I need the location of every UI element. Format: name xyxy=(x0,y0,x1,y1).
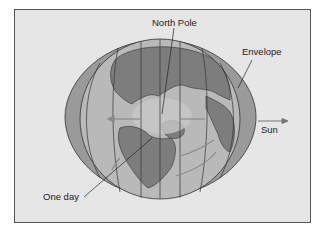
north-pole-label: North Pole xyxy=(152,17,197,28)
sun-arrow xyxy=(258,119,288,124)
one-day-label: One day xyxy=(43,191,79,202)
sun-label: Sun xyxy=(261,124,278,135)
envelope-label: Envelope xyxy=(242,46,282,57)
